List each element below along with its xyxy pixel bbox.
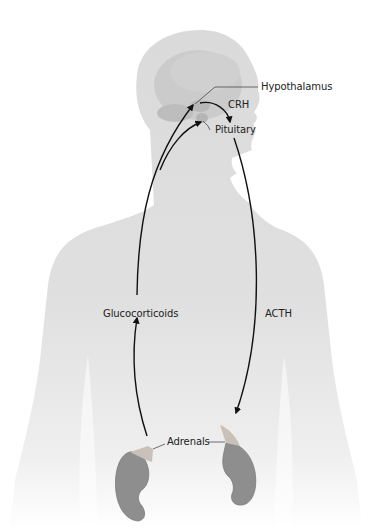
label-hypothalamus: Hypothalamus <box>261 81 332 93</box>
label-pituitary: Pituitary <box>215 124 256 136</box>
label-adrenals: Adrenals <box>167 436 210 448</box>
pituitary-gland <box>196 113 208 123</box>
label-acth: ACTH <box>265 308 292 320</box>
label-glucocorticoids: Glucocorticoids <box>103 308 178 320</box>
hpa-axis-diagram <box>0 0 372 530</box>
label-crh: CRH <box>228 99 249 111</box>
